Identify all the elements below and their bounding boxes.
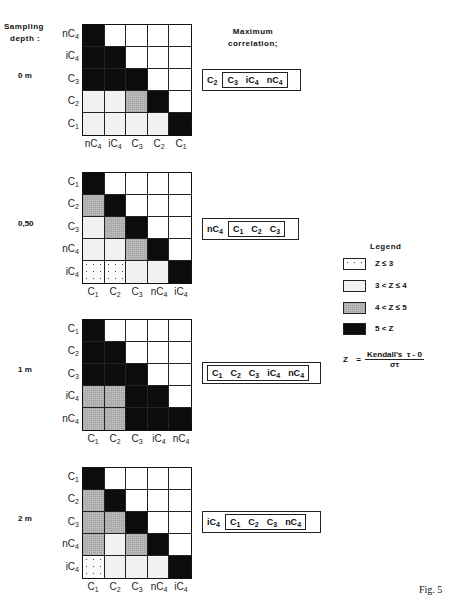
matrix-cell <box>83 512 105 534</box>
matrix-cell <box>148 512 170 534</box>
matrix-cell <box>148 217 170 239</box>
row-label: nC4 <box>49 243 79 255</box>
matrix-cell <box>126 91 148 113</box>
matrix-cell <box>169 320 191 342</box>
header-line: Sampling <box>4 21 44 33</box>
column-label: nC4 <box>82 138 104 150</box>
max-correlation-item: iC4 <box>267 368 280 379</box>
matrix-cell <box>148 47 170 69</box>
formula-lhs: Z <box>343 355 348 364</box>
max-correlation-item: nC4 <box>267 75 283 86</box>
matrix-cell <box>169 490 191 512</box>
max-correlation-group: C3iC4nC4 <box>222 72 287 88</box>
matrix-cell <box>83 490 105 512</box>
matrix-cell <box>148 534 170 556</box>
max-correlation-item: iC4 <box>246 75 259 86</box>
max-correlation-item: C1 <box>212 368 222 379</box>
matrix-cell <box>105 25 127 47</box>
legend-swatch-fine-stipple <box>343 280 366 292</box>
matrix-cell <box>148 261 170 283</box>
column-label: C2 <box>104 581 126 593</box>
matrix-cell <box>169 556 191 578</box>
matrix-cell <box>105 320 127 342</box>
matrix-cell <box>126 556 148 578</box>
column-label: C1 <box>82 581 104 593</box>
legend-label: 5 < Z <box>375 324 393 333</box>
column-label: C2 <box>104 286 126 298</box>
matrix-cell <box>83 91 105 113</box>
matrix-cell <box>83 534 105 556</box>
matrix-cell <box>169 69 191 91</box>
max-correlation-box: C1C2C3iC4nC4 <box>202 362 321 384</box>
matrix-cell <box>83 342 105 364</box>
legend-swatch-dotted <box>343 258 366 270</box>
matrix-cell <box>105 342 127 364</box>
row-label: iC4 <box>49 390 79 402</box>
matrix-cell <box>148 490 170 512</box>
legend-swatch-black <box>343 323 366 335</box>
depth-label: 1 m <box>18 365 32 374</box>
row-label: C3 <box>49 516 79 528</box>
matrix-cell <box>126 113 148 135</box>
legend-label: Z ≤ 3 <box>375 259 393 268</box>
correlation-matrix <box>82 24 192 136</box>
row-label: iC4 <box>49 50 79 62</box>
depth-label: 2 m <box>18 514 32 523</box>
matrix-cell <box>126 386 148 408</box>
matrix-cell <box>169 195 191 217</box>
matrix-cell <box>105 261 127 283</box>
row-label: C2 <box>49 95 79 107</box>
matrix-cell <box>148 173 170 195</box>
matrix-cell <box>126 217 148 239</box>
column-label: iC4 <box>148 433 170 445</box>
matrix-cell <box>83 69 105 91</box>
matrix-cell <box>83 364 105 386</box>
matrix-cell <box>169 47 191 69</box>
matrix-cell <box>83 408 105 430</box>
matrix-cell <box>83 195 105 217</box>
matrix-cell <box>169 386 191 408</box>
matrix-cell <box>126 173 148 195</box>
correlation-matrix <box>82 172 192 284</box>
column-label: C1 <box>82 433 104 445</box>
row-label: nC4 <box>49 538 79 550</box>
max-correlation-item: C3 <box>249 368 259 379</box>
column-label: C1 <box>170 138 192 150</box>
max-correlation-group: C1C2C3iC4nC4 <box>207 365 309 381</box>
row-label: C2 <box>49 198 79 210</box>
matrix-cell <box>83 25 105 47</box>
max-correlation-group: C1C2C3 <box>228 221 285 237</box>
column-label: nC4 <box>148 286 170 298</box>
max-correlation-item: C2 <box>230 368 240 379</box>
sampling-depth-header: Sampling depth : <box>4 21 44 45</box>
row-label: nC4 <box>49 28 79 40</box>
matrix-cell <box>169 408 191 430</box>
matrix-cell <box>169 25 191 47</box>
matrix-cell <box>148 91 170 113</box>
matrix-cell <box>148 556 170 578</box>
row-label: iC4 <box>49 561 79 573</box>
row-label: C3 <box>49 73 79 85</box>
matrix-cell <box>148 239 170 261</box>
column-label: iC4 <box>170 286 192 298</box>
matrix-cell <box>126 239 148 261</box>
matrix-cell <box>169 342 191 364</box>
matrix-cell <box>83 113 105 135</box>
matrix-cell <box>126 534 148 556</box>
matrix-cell <box>126 69 148 91</box>
matrix-cell <box>169 512 191 534</box>
matrix-cell <box>105 173 127 195</box>
matrix-cell <box>105 364 127 386</box>
matrix-cell <box>169 173 191 195</box>
row-label: C1 <box>49 471 79 483</box>
max-correlation-box: nC4C1C2C3 <box>202 218 299 240</box>
matrix-cell <box>126 364 148 386</box>
column-label: iC4 <box>170 581 192 593</box>
max-correlation-outer: iC4 <box>207 517 220 528</box>
legend-label: 4 < Z ≤ 5 <box>375 303 407 312</box>
matrix-cell <box>83 556 105 578</box>
matrix-cell <box>105 490 127 512</box>
column-label: C3 <box>126 138 148 150</box>
matrix-cell <box>126 342 148 364</box>
matrix-cell <box>126 47 148 69</box>
